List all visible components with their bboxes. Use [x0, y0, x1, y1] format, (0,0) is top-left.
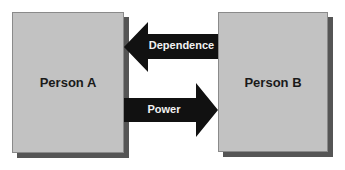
dependence-label: Dependence [145, 39, 218, 51]
power-label: Power [124, 103, 204, 115]
arrows-layer [0, 0, 345, 170]
